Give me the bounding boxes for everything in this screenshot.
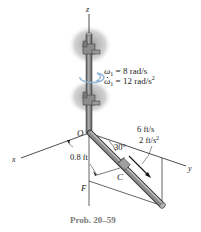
shaft-top-cap [86, 33, 92, 35]
origin-label: O [77, 128, 84, 138]
collar-acceleration-label: 2 ft/s2 [139, 135, 159, 146]
z-axis-label: z [85, 5, 90, 14]
angle-label: 30° [114, 142, 126, 152]
distance-label: 0.8 ft [70, 152, 89, 162]
collar-velocity-label: 6 ft/s [137, 124, 154, 134]
distance-leader-line [90, 164, 97, 175]
foot-label: F [80, 183, 87, 193]
engineering-diagram: z ω1 = 8 rad/s ω1 = 12 rad/s2 x y [0, 0, 201, 232]
x-arc-arrowhead-icon [67, 140, 70, 144]
collar-label: C [117, 172, 124, 182]
velocity-leader [142, 146, 152, 164]
y-axis-label: y [187, 164, 192, 173]
omega-dot-marker [107, 77, 108, 78]
x-axis-label: x [11, 155, 16, 164]
figure-caption: Prob. 20–59 [70, 215, 116, 225]
